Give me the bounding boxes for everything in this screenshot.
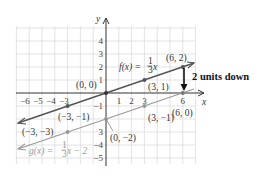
point-f-3 (142, 78, 146, 82)
svg-text:f(x) =: f(x) = (119, 62, 141, 73)
shift-arrow (181, 68, 188, 91)
label-g-3: (3, −1) (148, 113, 174, 124)
svg-text:−5: −5 (93, 153, 103, 163)
f-equation: f(x) = 1 3 x (119, 56, 158, 75)
point-f-neg3 (66, 104, 70, 108)
leader-g-0 (106, 119, 113, 131)
label-f-0: (0, 0) (76, 80, 97, 91)
label-g-0: (0, −2) (110, 133, 136, 144)
point-g-6 (181, 91, 185, 95)
svg-text:x − 2: x − 2 (66, 146, 87, 156)
svg-text:g(x) =: g(x) = (29, 146, 53, 157)
svg-text:6: 6 (181, 96, 186, 106)
down-arrow-icon (181, 84, 188, 91)
label-f-6: (6, 2) (166, 53, 187, 64)
svg-text:−5: −5 (33, 96, 43, 106)
y-tick-labels: 4 3 2 1 −1 3 −4 −5 (93, 36, 103, 163)
svg-text:−4: −4 (93, 140, 103, 150)
label-g-6: (6, 0) (172, 108, 193, 119)
point-g-neg3 (66, 130, 70, 134)
shift-annotation: 2 units down (192, 71, 249, 82)
point-g-3 (142, 104, 146, 108)
svg-text:3: 3 (99, 49, 104, 59)
svg-text:2: 2 (129, 96, 134, 106)
x-axis-label: x (201, 97, 207, 107)
label-f-neg3: (−3, −1) (58, 112, 89, 123)
label-f-3: (3, 1) (148, 82, 169, 93)
svg-text:x: x (152, 62, 158, 72)
svg-text:−1: −1 (93, 101, 103, 111)
point-f-0 (104, 91, 108, 95)
svg-text:2: 2 (99, 62, 104, 72)
svg-text:−4: −4 (46, 96, 56, 106)
svg-text:4: 4 (99, 36, 104, 46)
svg-text:−6: −6 (20, 96, 30, 106)
svg-text:1: 1 (99, 75, 104, 85)
svg-text:3: 3 (99, 127, 104, 137)
y-axis-label: y (95, 14, 101, 24)
graph: x y −6 −5 −4 −3 1 2 3 6 4 3 2 1 −1 3 −4 … (0, 0, 266, 183)
svg-text:1: 1 (117, 96, 122, 106)
label-g-neg3: (−3, −3) (22, 127, 53, 138)
